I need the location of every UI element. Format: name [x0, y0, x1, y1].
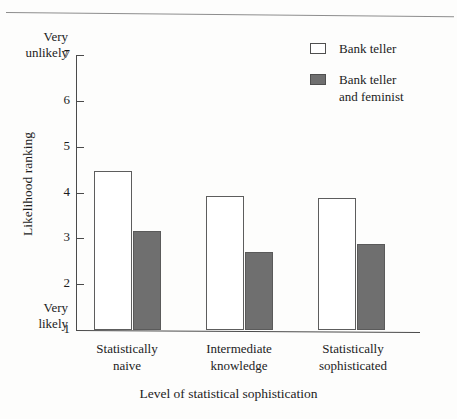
bar-bank-teller-feminist-statistically-naive	[133, 231, 161, 330]
legend-swatch-dark-icon	[310, 74, 326, 85]
y-axis-endpoint-bottom: Very likely	[6, 300, 68, 332]
y-tick-label-6: 6	[64, 92, 71, 108]
y-tick-label-4: 4	[64, 184, 71, 200]
bar-bank-teller-feminist-intermediate-knowledge	[245, 252, 273, 330]
y-tick-label-7: 7	[64, 46, 71, 62]
y-tick-label-2: 2	[64, 275, 71, 291]
x-category-label-0: Statistically naive	[68, 340, 186, 374]
y-axis-endpoint-top: Very unlikely	[6, 29, 68, 61]
x-axis-title: Level of statistical sophistication	[0, 386, 457, 402]
bar-bank-teller-intermediate-knowledge	[206, 196, 244, 330]
page-top-rule	[6, 12, 454, 17]
legend-label-bank-teller: Bank teller	[339, 40, 396, 57]
y-axis-title: Likelihood ranking	[20, 109, 36, 259]
legend-label-bank-teller-feminist: Bank teller and feminist	[339, 71, 404, 105]
legend-item-bank-teller-feminist: Bank teller and feminist	[310, 71, 404, 105]
x-category-label-1: Intermediate knowledge	[180, 340, 298, 374]
x-category-label-2: Statistically sophisticated	[292, 340, 414, 374]
y-tick-1: 1	[76, 330, 84, 331]
legend-item-bank-teller: Bank teller	[310, 40, 404, 57]
bar-chart-figure: Very unlikely Very likely 7 6 5 4 3 2 1	[0, 0, 457, 419]
bar-bank-teller-statistically-sophisticated	[318, 198, 356, 330]
x-axis-line	[76, 330, 420, 333]
legend-swatch-light-icon	[310, 43, 326, 54]
y-tick-label-1: 1	[64, 321, 71, 337]
legend: Bank teller Bank teller and feminist	[310, 40, 404, 119]
bar-bank-teller-statistically-naive	[94, 171, 132, 330]
y-tick-label-5: 5	[64, 138, 71, 154]
bar-bank-teller-feminist-statistically-sophisticated	[357, 244, 385, 330]
y-tick-label-3: 3	[64, 229, 71, 245]
